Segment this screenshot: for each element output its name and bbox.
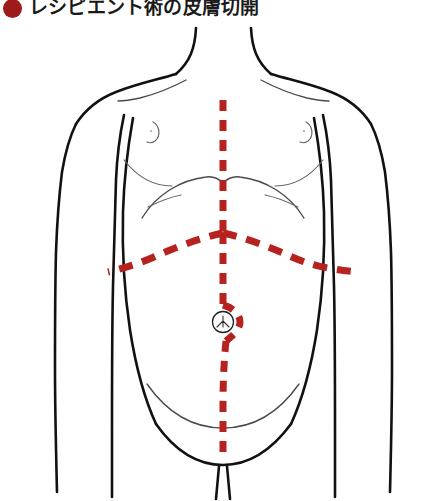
- left-oblique-line: [148, 195, 181, 207]
- left-shoulder-contour: [76, 74, 176, 124]
- right-oblique-line: [265, 195, 298, 207]
- groin-cleft-left: [216, 466, 219, 499]
- right-clavicle-line: [261, 80, 329, 101]
- left-pectoral-fold: [124, 160, 172, 186]
- right-shoulder-contour: [271, 74, 371, 124]
- left-arm-outer-contour: [55, 124, 76, 492]
- midline-incision-lower: [223, 341, 226, 452]
- groin-cleft-right: [227, 466, 230, 499]
- left-clavicle-line: [118, 80, 186, 101]
- right-nipple-icon: [300, 122, 312, 143]
- right-pectoral-fold: [275, 160, 323, 186]
- neck-left-contour: [176, 28, 196, 74]
- right-armpit-contour: [323, 115, 335, 497]
- torso-illustration: [0, 0, 447, 501]
- right-arm-outer-contour: [371, 124, 392, 492]
- left-nipple-icon: [147, 122, 159, 143]
- left-armpit-contour: [112, 115, 124, 497]
- chevron-incision-right-arm: [223, 233, 358, 272]
- neck-right-contour: [251, 28, 271, 74]
- chevron-incision-left-arm: [108, 233, 223, 272]
- figure-root: レシピエント術の皮膚切開: [0, 0, 447, 501]
